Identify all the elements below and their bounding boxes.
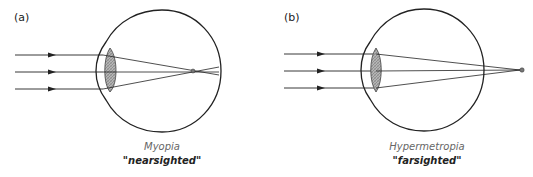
panel-myopia: (a) Myopia "nearsighted" xyxy=(0,0,266,177)
condition-description: "farsighted" xyxy=(357,155,497,166)
condition-name: Hypermetropia xyxy=(357,141,497,152)
panel-label: (b) xyxy=(284,11,300,24)
condition-description: "nearsighted" xyxy=(92,155,232,166)
panel-label: (a) xyxy=(14,11,29,24)
panel-hypermetropia: (b) Hypermetropia "farsighted" xyxy=(266,0,533,177)
condition-name: Myopia xyxy=(92,141,232,152)
